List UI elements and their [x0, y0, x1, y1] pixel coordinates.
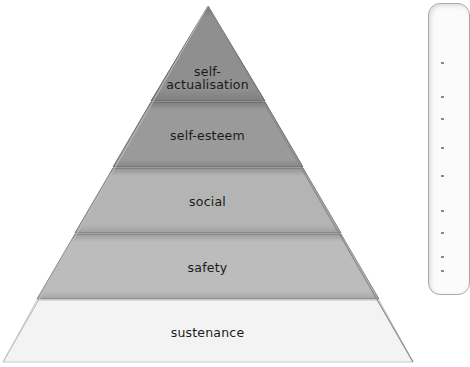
- label-safety: safety: [0, 261, 415, 275]
- panel-mark: [441, 232, 444, 234]
- label-self-esteem: self-esteem: [0, 129, 415, 143]
- side-panel: [428, 3, 470, 295]
- panel-mark: [441, 62, 444, 64]
- panel-mark: [441, 147, 444, 149]
- panel-mark: [441, 210, 444, 212]
- panel-mark: [441, 256, 444, 258]
- label-sustenance: sustenance: [0, 326, 415, 340]
- panel-mark: [441, 270, 444, 272]
- panel-mark: [441, 118, 444, 120]
- label-social: social: [0, 195, 415, 209]
- label-self-actualisation-line2: actualisation: [0, 78, 415, 92]
- panel-mark: [441, 175, 444, 177]
- panel-mark: [441, 96, 444, 98]
